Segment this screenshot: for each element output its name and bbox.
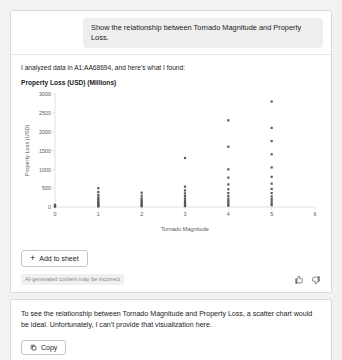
copy-icon <box>30 344 37 351</box>
svg-text:Property Loss (USD): Property Loss (USD) <box>24 125 30 177</box>
scatter-chart-svg: 0500100015002000250030000123456Tornado M… <box>21 88 321 233</box>
plus-icon: + <box>30 254 35 263</box>
svg-text:2: 2 <box>140 211 143 217</box>
copy-button[interactable]: Copy <box>21 340 66 355</box>
svg-text:3: 3 <box>184 211 187 217</box>
message-footer-1: AI-generated content may be incorrect <box>11 269 331 292</box>
assistant-answer-1: I analyzed data in A1:AA68694, and here'… <box>11 54 331 243</box>
svg-text:1000: 1000 <box>39 167 51 173</box>
user-prompt-row: Show the relationship between Tornado Ma… <box>11 11 331 54</box>
page-root: Show the relationship between Tornado Ma… <box>0 0 342 360</box>
assistant-message-card-2: To see the relationship between Tornado … <box>10 299 332 360</box>
copy-row: Copy <box>11 333 331 357</box>
scatter-chart: 0500100015002000250030000123456Tornado M… <box>21 88 321 233</box>
card-spacer <box>10 293 332 299</box>
svg-text:Tornado Magnitude: Tornado Magnitude <box>161 226 209 232</box>
chart-title: Property Loss (USD) (Millions) <box>21 79 321 86</box>
feedback-controls-1 <box>294 275 321 285</box>
svg-text:6: 6 <box>314 211 317 217</box>
svg-text:500: 500 <box>42 186 51 192</box>
ai-disclaimer: AI-generated content may be incorrect <box>21 274 124 285</box>
svg-text:2500: 2500 <box>39 110 51 116</box>
svg-text:1500: 1500 <box>39 148 51 154</box>
svg-text:5: 5 <box>270 211 273 217</box>
add-to-sheet-button[interactable]: + Add to sheet <box>21 250 88 267</box>
svg-text:0: 0 <box>54 211 57 217</box>
svg-text:2000: 2000 <box>39 129 51 135</box>
add-to-sheet-row: + Add to sheet <box>11 243 331 269</box>
copy-label: Copy <box>41 344 57 351</box>
svg-text:4: 4 <box>227 211 230 217</box>
thumbs-down-icon[interactable] <box>311 275 321 285</box>
assistant-answer-2-text: To see the relationship between Tornado … <box>11 300 331 333</box>
user-prompt-bubble: Show the relationship between Tornado Ma… <box>83 18 323 48</box>
add-to-sheet-label: Add to sheet <box>39 255 78 262</box>
assistant-message-card-1: Show the relationship between Tornado Ma… <box>10 10 332 293</box>
thumbs-up-icon[interactable] <box>294 275 304 285</box>
svg-text:1: 1 <box>97 211 100 217</box>
svg-text:0: 0 <box>48 204 51 210</box>
svg-text:3000: 3000 <box>39 91 51 97</box>
answer-intro-text: I analyzed data in A1:AA68694, and here'… <box>21 63 321 72</box>
